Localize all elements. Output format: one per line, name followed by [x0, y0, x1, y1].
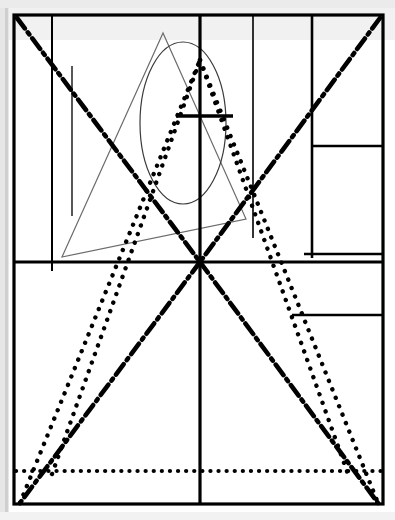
left-scan-shadow — [5, 0, 8, 520]
composition-svg — [0, 0, 395, 520]
top-scan-band — [0, 0, 395, 8]
bottom-scan-band — [0, 512, 395, 520]
drawing-canvas — [0, 0, 395, 520]
top-gray-wash — [9, 8, 395, 40]
